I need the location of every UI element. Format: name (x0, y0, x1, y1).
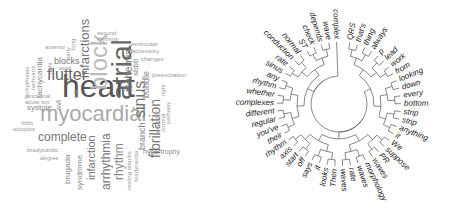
cloud-word: right (47, 62, 53, 74)
cloud-word: changes (141, 56, 164, 62)
cloud-word: anterior (45, 44, 65, 50)
cloud-word: infarctions (78, 19, 91, 78)
cloud-word: right (160, 84, 166, 96)
cloud-word: degree (40, 155, 59, 161)
cloud-word: left (73, 90, 79, 98)
cloud-word: pathway (165, 102, 171, 124)
dendrogram-leaf-label: complex (331, 9, 341, 40)
cloud-word: acute svt (25, 99, 49, 105)
cloud-word: rhythm (113, 143, 125, 180)
cloud-word: preexcitation (152, 72, 186, 78)
cloud-word: sbbb (132, 59, 140, 76)
cloud-word: brugada (64, 155, 72, 184)
dendrogram-leaf-label: waves (339, 169, 349, 192)
cloud-word: bradycardic (27, 147, 58, 153)
cloud-word: early (65, 47, 71, 60)
cloud-word: branch (138, 122, 147, 150)
dendrogram-svg: QRSthat'sthingalwayspleadworkfromlooking… (225, 0, 450, 209)
word-cloud: heartatrialmyocardialblockfluttersinusin… (0, 0, 225, 209)
circular-dendrogram: QRSthat'sthingalwayspleadworkfromlooking… (225, 0, 450, 209)
cloud-word: bundle (142, 71, 151, 98)
cloud-word: complete (38, 131, 87, 143)
cloud-word: bradycardia (133, 151, 139, 182)
cloud-word: tachyarrc (30, 65, 36, 90)
cloud-word: wpw (59, 65, 71, 71)
cloud-word: ectopics (13, 126, 35, 132)
cloud-word: tachycardia (36, 57, 44, 98)
dendrogram-leaf-label: bottom (404, 99, 429, 108)
cloud-word: syndrome (76, 155, 84, 190)
cloud-word: ventricular (130, 41, 158, 47)
cloud-word: arrhythmia (100, 133, 112, 190)
cloud-word: svt (55, 100, 63, 110)
cloud-word: accessory (132, 48, 159, 54)
cloud-word: rhythms (97, 36, 118, 42)
cloud-word: hypertrophy (143, 148, 180, 155)
cloud-word: resting attacks (126, 151, 132, 190)
dendrogram-leaf-label: complexes (236, 98, 274, 108)
cloud-word: infarction (86, 135, 97, 180)
